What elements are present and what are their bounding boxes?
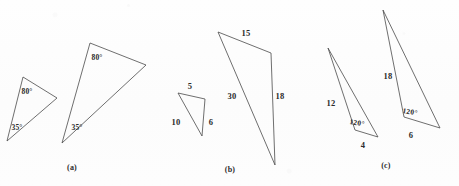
small-triangle-b [178,93,205,136]
panel-caption-c: (c) [381,162,390,170]
side-label-large-c-left: 18 [384,72,393,81]
side-label-small-c-left: 12 [327,99,336,108]
panel-b-shapes [178,32,275,165]
side-label-small-b-left: 10 [172,118,181,127]
angle-label-small-a-top: 80° [21,88,32,96]
panel-caption-b: (b) [225,166,235,174]
figure-container: 80° 35° 80° 35° 5 10 6 15 30 18 12 120° … [0,0,459,186]
angle-label-small-a-bottom: 35° [11,124,22,132]
side-label-small-b-right: 6 [209,118,213,127]
angle-label-large-a-top: 80° [91,54,102,62]
side-label-large-b-top: 15 [242,29,251,38]
angle-label-large-c: 120° [402,107,418,117]
side-label-large-c-bottom: 6 [409,131,413,140]
large-triangle-b [218,32,275,165]
side-label-large-b-left: 30 [228,92,237,101]
side-label-large-b-right: 18 [276,92,285,101]
angle-label-large-a-bottom: 35° [71,124,82,132]
panel-caption-a: (a) [67,164,77,172]
side-label-small-b-top: 5 [188,82,192,91]
side-label-small-c-bottom: 4 [361,141,365,150]
angle-label-small-c: 120° [349,118,365,128]
